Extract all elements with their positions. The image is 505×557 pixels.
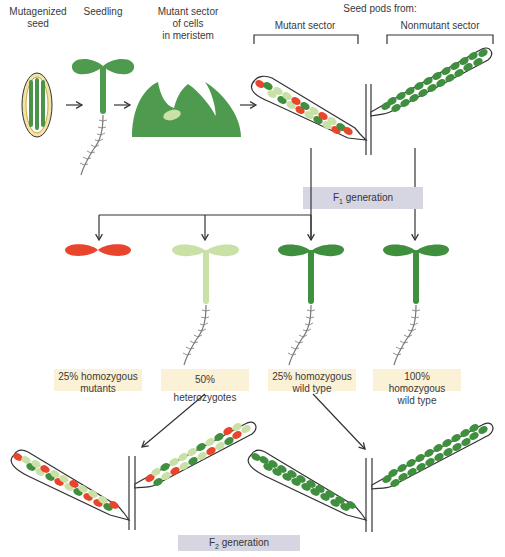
bracket-mutant-sector	[254, 35, 358, 44]
meristem-icon	[132, 82, 241, 137]
nonmutant-wildtype-seedling-icon	[383, 245, 449, 366]
mutant-sector-pod	[251, 76, 366, 140]
bracket-nonmutant-sector	[387, 35, 493, 44]
f2-left-stem	[129, 456, 135, 530]
homozygous-mutant-seedling-icon	[65, 244, 131, 256]
f2-segregating-pod-left	[11, 450, 129, 520]
seedling-icon	[72, 59, 134, 175]
diagram-canvas	[0, 0, 505, 557]
f2-wildtype-pod-right	[372, 422, 493, 489]
f2-segregating-pod-right	[135, 421, 256, 488]
f2-wildtype-pod-left	[248, 450, 366, 520]
homozygous-wildtype-seedling-icon	[278, 245, 344, 366]
mutagenized-seed-icon	[22, 73, 52, 137]
heterozygote-seedling-icon	[172, 245, 239, 366]
top-stem	[366, 84, 371, 155]
arrow-wildtype-to-f2	[313, 394, 365, 449]
f2-right-stem	[366, 458, 372, 532]
nonmutant-sector-pod	[371, 47, 492, 116]
arrow-heterozygote-to-f2	[142, 394, 205, 447]
f1-branch-arrows	[99, 209, 415, 240]
